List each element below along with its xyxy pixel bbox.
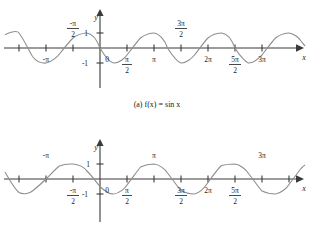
caption-panel-a: (a) f(x) = sin x <box>0 100 314 109</box>
x-tick-label-3pi-sin: 3π <box>258 55 266 64</box>
frac-den: 2 <box>233 197 237 206</box>
frac-den: 2 <box>233 66 237 75</box>
x-tick-label-zero-cos: 0 <box>105 186 109 195</box>
x-tick-label-2pi-cos: 2π <box>204 186 212 195</box>
graph-sin-panel: 1 -1 y x -π 0 π 2 π 2π 5π 2 3π -π 2 3 <box>0 0 314 100</box>
x-tick-label-neg-pi-cos: -π <box>43 151 49 160</box>
y-tick-label-1: 1 <box>84 29 88 38</box>
x-tick-label-neg-pi-over-2-cos: -π 2 <box>67 186 79 206</box>
x-tick-label-5pi-over-2-sin: 5π 2 <box>229 55 241 75</box>
frac-den: 2 <box>179 197 183 206</box>
y-tick-label-neg1: -1 <box>82 59 88 68</box>
y-tick-label-1-cos: 1 <box>86 160 90 169</box>
x-tick-label-5pi-over-2-cos: 5π 2 <box>229 186 241 206</box>
frac-den: 2 <box>125 197 129 206</box>
y-tick-label-neg1-cos: -1 <box>82 190 88 199</box>
x-tick-label-3pi-over-2-cos: 3π 2 <box>175 186 187 206</box>
frac-num: 5π <box>231 186 239 195</box>
frac-num: 5π <box>231 55 239 64</box>
frac-num: -π <box>70 19 76 28</box>
trig-graphs-figure: 1 -1 y x -π 0 π 2 π 2π 5π 2 3π -π 2 3 <box>0 0 314 236</box>
y-axis-name-cos: y <box>93 143 98 152</box>
frac-num: π <box>125 55 129 64</box>
frac-num: 3π <box>177 186 185 195</box>
frac-den: 2 <box>71 197 75 206</box>
frac-den: 2 <box>71 30 75 39</box>
x-tick-label-2pi-sin: 2π <box>204 55 212 64</box>
x-tick-label-zero-sin: 0 <box>105 55 109 64</box>
graph-cos-panel: 1 -1 y x -π 2 0 π 2 3π 2 2π 5π 2 -π <box>0 126 314 236</box>
x-axis-arrow-icon <box>296 44 304 52</box>
frac-den: 2 <box>179 30 183 39</box>
x-axis-arrow-icon <box>296 175 304 183</box>
x-tick-label-pi-over-2-sin: π 2 <box>122 55 132 75</box>
frac-den: 2 <box>125 66 129 75</box>
x-axis-name-sin: x <box>301 53 306 62</box>
x-axis-name-cos: x <box>301 184 306 193</box>
x-tick-label-pi-sin: π <box>152 55 156 64</box>
x-tick-label-3pi-over-2-sin: 3π 2 <box>175 19 187 39</box>
x-tick-label-neg-pi-sin: -π <box>43 55 49 64</box>
frac-num: 3π <box>177 19 185 28</box>
y-axis-name-sin: y <box>93 13 98 22</box>
frac-num: -π <box>70 186 76 195</box>
caption-text: (a) f(x) = sin x <box>134 100 181 109</box>
x-tick-label-pi-cos: π <box>152 151 156 160</box>
x-tick-label-3pi-cos: 3π <box>258 151 266 160</box>
frac-num: π <box>125 186 129 195</box>
